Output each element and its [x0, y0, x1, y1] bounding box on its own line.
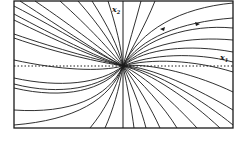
trajectory-arrow-icon — [160, 27, 165, 31]
x2-axis-label: x2 — [111, 4, 121, 15]
phase-portrait-figure: x2 x1 — [0, 0, 240, 143]
x1-axis-label: x1 — [219, 52, 228, 63]
